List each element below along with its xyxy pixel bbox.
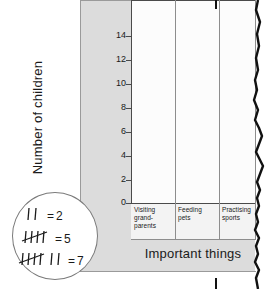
category-line-2: pets xyxy=(178,214,218,222)
torn-page-edge xyxy=(236,0,279,289)
y-tick-6: 6 xyxy=(104,127,126,136)
y-tick-label-14: 14 xyxy=(110,31,126,40)
category-label-visiting-grandparents: Visiting grand- parents xyxy=(134,206,174,229)
category-line-3: parents xyxy=(134,222,174,230)
chart-panel-bottom-edge xyxy=(80,271,256,272)
category-label-feeding-pets: Feeding pets xyxy=(178,206,218,222)
y-tick-label-4: 4 xyxy=(110,151,126,160)
tally-marks-7-icon xyxy=(18,251,64,270)
y-axis-title: Number of children xyxy=(30,43,45,193)
tally-key-row-5: = 5 xyxy=(21,229,71,248)
tally-marks-2-icon xyxy=(25,206,43,225)
tally-equals-sign: = xyxy=(68,254,75,268)
y-tick-14: 14 xyxy=(104,31,126,40)
page-binding-mark-bottom xyxy=(215,278,217,289)
y-axis-line xyxy=(131,0,132,204)
column-divider-1 xyxy=(175,0,176,240)
category-line-1: Feeding xyxy=(178,206,218,214)
tally-value-5: 5 xyxy=(64,232,71,246)
y-tick-label-8: 8 xyxy=(110,103,126,112)
y-tick-label-10: 10 xyxy=(110,79,126,88)
category-line-1: Visiting xyxy=(134,206,174,214)
tally-key-row-7: = 7 xyxy=(18,251,84,270)
y-tick-4: 4 xyxy=(104,151,126,160)
y-tick-8: 8 xyxy=(104,103,126,112)
y-tick-2: 2 xyxy=(104,175,126,184)
tally-equals-sign: = xyxy=(55,232,62,246)
tally-marks-5-icon xyxy=(21,229,51,248)
tally-key-circle: = 2 = 5 xyxy=(12,192,98,280)
y-tick-12: 12 xyxy=(104,55,126,64)
tally-value-7: 7 xyxy=(77,254,84,268)
tally-equals-sign: = xyxy=(47,209,54,223)
y-tick-label-0: 0 xyxy=(110,198,126,207)
y-tick-label-2: 2 xyxy=(110,175,126,184)
y-tick-10: 10 xyxy=(104,79,126,88)
tally-value-2: 2 xyxy=(56,209,63,223)
y-tick-label-12: 12 xyxy=(110,55,126,64)
y-tick-label-6: 6 xyxy=(110,127,126,136)
page-scan: Number of children 14 12 10 8 6 4 2 0 Vi… xyxy=(0,0,279,289)
y-tick-0: 0 xyxy=(104,198,126,207)
tally-key-row-2: = 2 xyxy=(25,206,63,225)
column-divider-2 xyxy=(219,0,220,240)
page-binding-mark-top xyxy=(215,0,217,9)
category-line-2: grand- xyxy=(134,214,174,222)
